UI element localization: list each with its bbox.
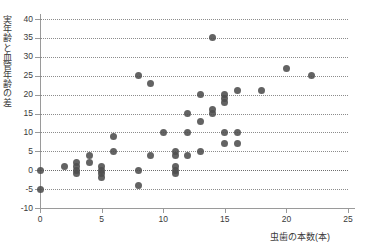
x-tick-15 xyxy=(225,208,226,213)
data-point xyxy=(135,167,142,174)
gridline-y-35 xyxy=(40,38,348,39)
y-tick-label-25: 25 xyxy=(7,71,33,80)
data-point xyxy=(221,129,228,136)
x-tick-label-0: 0 xyxy=(27,215,53,224)
gridline-y-20 xyxy=(40,95,348,96)
data-point xyxy=(308,72,315,79)
data-point xyxy=(110,148,117,155)
y-tick-label-35: 35 xyxy=(7,33,33,42)
y-tick-label-40: 40 xyxy=(7,15,33,24)
y-tick-label-10: 10 xyxy=(7,128,33,137)
x-tick-0 xyxy=(40,208,41,213)
x-tick-10 xyxy=(163,208,164,213)
x-tick-label-15: 15 xyxy=(212,215,238,224)
data-point xyxy=(172,170,179,177)
y-tick-label-30: 30 xyxy=(7,52,33,61)
x-tick-label-10: 10 xyxy=(150,215,176,224)
gridline-y-0 xyxy=(40,170,348,171)
data-point xyxy=(37,186,44,193)
y-tick-label-15: 15 xyxy=(7,109,33,118)
data-point xyxy=(172,152,179,159)
x-tick-20 xyxy=(286,208,287,213)
y-tick-label--10: -10 xyxy=(7,204,33,213)
gridline-y-30 xyxy=(40,57,348,58)
data-point xyxy=(184,152,191,159)
data-point xyxy=(110,133,117,140)
plot-area xyxy=(40,19,348,208)
data-point xyxy=(86,152,93,159)
data-point xyxy=(234,129,241,136)
data-point xyxy=(221,99,228,106)
y-tick-label-5: 5 xyxy=(7,147,33,156)
data-point xyxy=(86,159,93,166)
gridline-y-15 xyxy=(40,114,348,115)
data-point xyxy=(258,87,265,94)
data-point xyxy=(135,182,142,189)
data-point xyxy=(209,34,216,41)
data-point xyxy=(234,140,241,147)
data-point xyxy=(37,167,44,174)
data-point xyxy=(160,129,167,136)
data-point xyxy=(197,118,204,125)
data-point xyxy=(147,152,154,159)
data-point xyxy=(61,163,68,170)
gridline-y-10 xyxy=(40,132,348,133)
y-tick-label-20: 20 xyxy=(7,90,33,99)
data-point xyxy=(184,110,191,117)
gridline-y-25 xyxy=(40,76,348,77)
y-tick-label--5: -5 xyxy=(7,185,33,194)
data-point xyxy=(135,72,142,79)
x-tick-label-25: 25 xyxy=(335,215,361,224)
x-tick-5 xyxy=(102,208,103,213)
data-point xyxy=(184,129,191,136)
x-tick-label-5: 5 xyxy=(89,215,115,224)
data-point xyxy=(98,174,105,181)
scatter-chart: 実年齢と血管年齢の差 -10-50510152025303540 0510152… xyxy=(0,0,370,248)
data-point xyxy=(209,110,216,117)
x-axis-title: 虫歯の本数(本) xyxy=(270,230,330,243)
data-point xyxy=(234,87,241,94)
data-point xyxy=(197,91,204,98)
data-point xyxy=(197,148,204,155)
x-tick-label-20: 20 xyxy=(273,215,299,224)
data-point xyxy=(73,170,80,177)
gridline-y-40 xyxy=(40,19,348,20)
data-point xyxy=(221,140,228,147)
x-tick-25 xyxy=(348,208,349,213)
data-point xyxy=(147,80,154,87)
data-point xyxy=(283,65,290,72)
x-axis-line xyxy=(40,208,355,209)
y-tick-label-0: 0 xyxy=(7,166,33,175)
gridline-y--5 xyxy=(40,189,348,190)
